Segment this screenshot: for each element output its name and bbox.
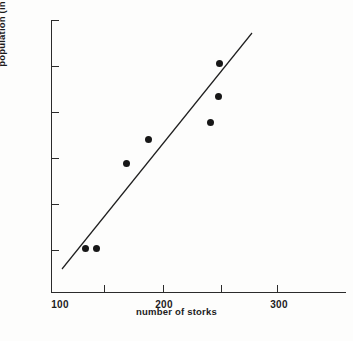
data-point (215, 93, 222, 100)
data-point (93, 245, 100, 252)
data-point (82, 245, 89, 252)
x-axis-line (51, 292, 346, 293)
plot-area: 80 70 60 100 200 300 (51, 20, 345, 292)
data-point (123, 160, 130, 167)
y-axis-title: population (in thousands) (0, 0, 7, 96)
data-point (207, 119, 214, 126)
scatter-plot-figure: 80 70 60 100 200 300 population (in thou… (0, 0, 353, 341)
data-point (145, 136, 152, 143)
data-point (216, 60, 223, 67)
x-axis-title: number of storks (0, 306, 353, 317)
